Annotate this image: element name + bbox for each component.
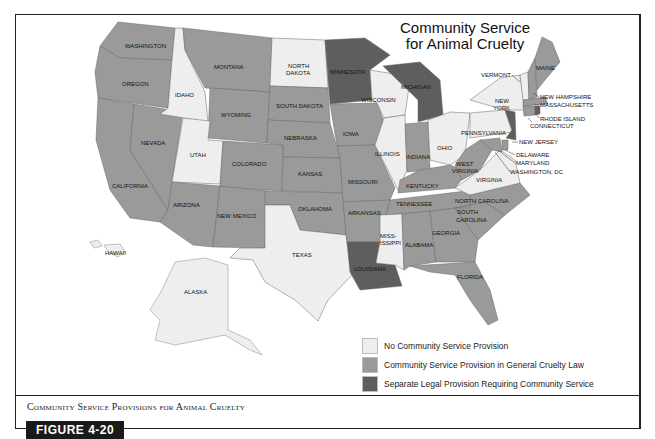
- svg-text:NORTH CAROLINA: NORTH CAROLINA: [455, 198, 509, 204]
- svg-text:MICHIGAN: MICHIGAN: [401, 84, 431, 90]
- svg-text:IOWA: IOWA: [343, 131, 359, 137]
- state-maine: [535, 37, 560, 90]
- state-indiana: [405, 122, 430, 172]
- legend-item-separate: Separate Legal Provision Requiring Commu…: [362, 374, 594, 393]
- svg-text:ILLINOIS: ILLINOIS: [375, 151, 400, 157]
- svg-text:NEW MEXICO: NEW MEXICO: [217, 213, 257, 219]
- svg-text:COLORADO: COLORADO: [232, 161, 267, 167]
- svg-text:NEW JERSEY: NEW JERSEY: [519, 139, 558, 145]
- svg-text:VIRGINIA: VIRGINIA: [452, 168, 478, 174]
- svg-text:DAKOTA: DAKOTA: [286, 70, 310, 76]
- svg-text:SOUTH DAKOTA: SOUTH DAKOTA: [276, 103, 323, 109]
- svg-text:PENNSYLVANIA: PENNSYLVANIA: [461, 130, 506, 136]
- svg-text:LOUISIANA: LOUISIANA: [354, 266, 386, 272]
- legend-swatch-separate: [362, 376, 378, 392]
- svg-text:NEBRASKA: NEBRASKA: [284, 135, 317, 141]
- svg-text:ALABAMA: ALABAMA: [405, 242, 433, 248]
- state-florida: [410, 262, 498, 325]
- legend-item-general: Community Service Provision in General C…: [362, 355, 594, 374]
- svg-text:MINNESOTA: MINNESOTA: [330, 69, 365, 75]
- svg-text:MISS-: MISS-: [380, 233, 397, 239]
- legend-label: Community Service Provision in General C…: [384, 360, 584, 370]
- svg-text:YORK: YORK: [493, 105, 510, 111]
- svg-text:MARYLAND: MARYLAND: [516, 160, 550, 166]
- svg-text:WEST: WEST: [456, 161, 474, 167]
- svg-text:ALASKA: ALASKA: [184, 289, 207, 295]
- svg-text:NEW: NEW: [495, 98, 509, 104]
- svg-text:WASHINGTON: WASHINGTON: [125, 43, 166, 49]
- svg-text:ARKANSAS: ARKANSAS: [348, 210, 381, 216]
- figure-caption: Community Service Provisions for Animal …: [27, 401, 245, 412]
- svg-text:OKLAHOMA: OKLAHOMA: [298, 206, 332, 212]
- svg-text:KENTUCKY: KENTUCKY: [406, 183, 439, 189]
- legend-label: Separate Legal Provision Requiring Commu…: [384, 379, 594, 389]
- legend-item-none: No Community Service Provision: [362, 336, 594, 355]
- state-delaware: [502, 140, 508, 150]
- svg-text:MAINE: MAINE: [536, 65, 555, 71]
- svg-text:OREGON: OREGON: [122, 81, 149, 87]
- svg-text:MONTANA: MONTANA: [214, 64, 244, 70]
- svg-text:GEORGIA: GEORGIA: [432, 230, 460, 236]
- figure-label: FIGURE 4-20: [26, 421, 124, 439]
- svg-text:WASHINGTON, DC: WASHINGTON, DC: [510, 169, 564, 175]
- legend-label: No Community Service Provision: [384, 341, 508, 351]
- svg-text:TEXAS: TEXAS: [292, 252, 312, 258]
- svg-text:NORTH: NORTH: [288, 63, 309, 69]
- svg-text:DELAWARE: DELAWARE: [516, 152, 549, 158]
- state-alaska: [150, 258, 262, 355]
- legend-swatch-none: [362, 338, 378, 354]
- svg-text:MASSACHUSETTS: MASSACHUSETTS: [540, 102, 593, 108]
- svg-text:NEVADA: NEVADA: [141, 140, 165, 146]
- state-connecticut: [523, 106, 535, 116]
- svg-text:MISSOURI: MISSOURI: [348, 179, 378, 185]
- svg-text:CALIFORNIA: CALIFORNIA: [112, 183, 148, 189]
- svg-text:WYOMING: WYOMING: [221, 112, 251, 118]
- svg-text:RHODE ISLAND: RHODE ISLAND: [540, 116, 586, 122]
- svg-text:IDAHO: IDAHO: [175, 92, 194, 98]
- svg-text:OHIO: OHIO: [437, 145, 453, 151]
- svg-text:KANSAS: KANSAS: [298, 171, 322, 177]
- svg-text:VIRGINIA: VIRGINIA: [476, 177, 502, 183]
- svg-text:FLORIDA: FLORIDA: [457, 274, 483, 280]
- svg-text:NEW HAMPSHIRE: NEW HAMPSHIRE: [540, 94, 591, 100]
- svg-text:UTAH: UTAH: [190, 152, 206, 158]
- legend-swatch-general: [362, 357, 378, 373]
- svg-text:ARIZONA: ARIZONA: [173, 202, 200, 208]
- svg-text:SOUTH: SOUTH: [457, 209, 478, 215]
- svg-text:ISSIPPI: ISSIPPI: [380, 240, 401, 246]
- state-iowa: [330, 103, 384, 146]
- svg-text:INDIANA: INDIANA: [406, 154, 430, 160]
- legend: No Community Service Provision Community…: [362, 336, 594, 393]
- svg-text:CONNECTICUT: CONNECTICUT: [530, 123, 574, 129]
- svg-text:CAROLINA: CAROLINA: [456, 217, 487, 223]
- svg-text:WISCONSIN: WISCONSIN: [361, 97, 396, 103]
- svg-text:HAWAII: HAWAII: [105, 250, 126, 256]
- svg-text:VERMONT: VERMONT: [481, 72, 511, 78]
- svg-text:TENNESSEE: TENNESSEE: [396, 201, 432, 207]
